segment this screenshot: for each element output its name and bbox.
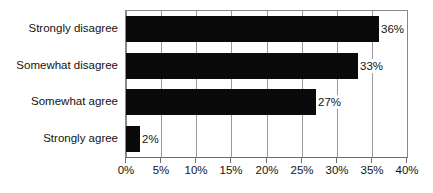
gridline [407, 11, 408, 157]
category-label: Strongly disagree [29, 21, 119, 35]
bar-somewhat-disagree [126, 53, 358, 79]
plot-area: 36% 33% 27% 2% [125, 10, 408, 158]
x-tick-label: 30% [325, 163, 348, 178]
category-label: Somewhat agree [31, 94, 118, 108]
category-label: Strongly agree [43, 131, 118, 145]
bar-chart: Strongly disagree Somewhat disagree Some… [0, 0, 433, 193]
x-tick-label: 15% [219, 163, 242, 178]
category-axis-labels: Strongly disagree Somewhat disagree Some… [0, 10, 122, 158]
value-label: 36% [380, 22, 405, 36]
category-label: Somewhat disagree [16, 58, 118, 72]
x-tick-label: 25% [290, 163, 313, 178]
x-tick-label: 40% [395, 163, 418, 178]
x-tick-label: 20% [255, 163, 278, 178]
x-tick-label: 35% [360, 163, 383, 178]
bar-somewhat-agree [126, 89, 316, 115]
x-tick-label: 0% [118, 163, 135, 178]
bar-series [126, 11, 407, 157]
x-tick-label: 10% [184, 163, 207, 178]
value-label: 33% [359, 59, 384, 73]
x-axis-labels: 0% 5% 10% 15% 20% 25% 30% 35% 40% [0, 163, 433, 179]
value-label: 2% [141, 132, 160, 146]
value-label: 27% [317, 95, 342, 109]
bar-strongly-disagree [126, 16, 379, 42]
bar-strongly-agree [126, 126, 140, 152]
x-tick-label: 5% [153, 163, 170, 178]
